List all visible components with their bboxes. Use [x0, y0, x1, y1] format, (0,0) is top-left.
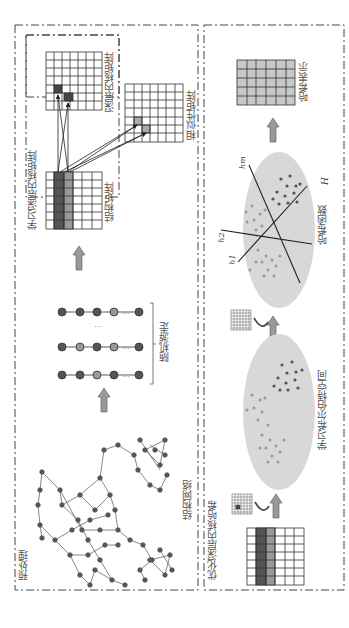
ellipsis-2: …	[122, 342, 130, 351]
walk-3	[58, 371, 143, 379]
deep-kernel-matrix-grid	[46, 52, 102, 110]
ellipsis-walks: …	[94, 320, 102, 329]
small-kernel-grid-1	[231, 310, 251, 330]
ellipsis-3: …	[122, 370, 130, 379]
learn-kernel-label: 学习深层内核矩阵	[28, 150, 38, 230]
random-walk-label: 随机游走	[160, 322, 170, 362]
similarity-matrix-grid	[125, 84, 183, 142]
walk-2	[58, 343, 143, 351]
structure-matrix-label: 结构矩阵	[105, 182, 115, 222]
walk-1	[58, 308, 143, 316]
random-walks	[58, 303, 156, 384]
hilbert-space	[243, 334, 315, 490]
h1-label: h1	[228, 254, 237, 264]
structure-matrix-grid-bottom	[247, 528, 304, 585]
preprocess-label: 预处理	[19, 550, 29, 580]
hm-label: hm	[238, 156, 247, 169]
hash-representation-label: 哈希表示	[299, 62, 309, 102]
diagram-canvas	[0, 0, 349, 628]
ellipsis-1: …	[122, 307, 130, 316]
H-label: H	[320, 177, 330, 185]
hash-functions-label: 哈希函数	[318, 205, 328, 245]
hash-function-space	[221, 152, 315, 308]
deep-kernel-matrix-label: 深层内核矩阵	[105, 52, 115, 112]
hilbert-space-label: 学习希尔伯特空间	[318, 370, 328, 450]
optimize-label: 优化深层内核哈希	[208, 500, 218, 580]
h2-label: h2	[217, 232, 226, 242]
structure-network	[36, 438, 175, 588]
structure-matrix-grid	[46, 172, 102, 229]
hash-representation-grid	[237, 60, 295, 105]
similarity-matrix-label: 相似性矩阵	[187, 90, 197, 140]
structure-network-label: 结构网络	[183, 480, 193, 520]
small-kernel-grid-2	[232, 494, 252, 514]
